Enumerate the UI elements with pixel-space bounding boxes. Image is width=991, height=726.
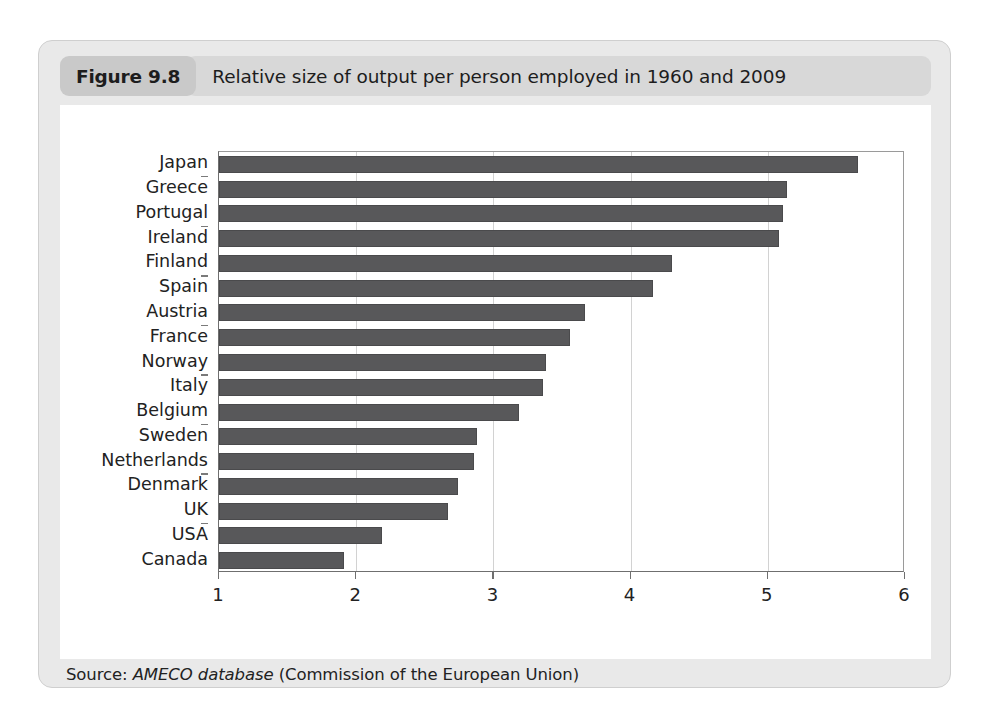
y-axis-tick-mark	[201, 473, 208, 474]
figure-number-badge: Figure 9.8	[60, 56, 196, 96]
bar	[219, 552, 344, 569]
bar-row	[219, 152, 858, 177]
bar-row	[219, 301, 585, 326]
x-axis-tick-mark	[355, 572, 356, 579]
bar-row	[219, 251, 672, 276]
y-axis-tick-label: Portugal	[136, 204, 208, 222]
x-axis-tick-label: 2	[335, 586, 375, 604]
y-axis-tick-mark	[201, 523, 208, 524]
bar-series	[219, 152, 903, 571]
y-axis-tick-label: Norway	[142, 353, 208, 371]
y-axis-tick-mark	[201, 176, 208, 177]
y-axis-tick-label: Greece	[146, 179, 208, 197]
y-axis-labels: JapanGreecePortugalIrelandFinlandSpainAu…	[60, 151, 208, 572]
bar-row	[219, 523, 382, 548]
y-axis-tick-label: Austria	[146, 303, 208, 321]
bar	[219, 255, 672, 272]
bar-row	[219, 177, 787, 202]
bar	[219, 428, 477, 445]
y-axis-tick-label: Belgium	[136, 402, 208, 420]
bar	[219, 304, 585, 321]
y-axis-tick-label: Denmark	[128, 476, 208, 494]
bar-row	[219, 424, 477, 449]
bar-row	[219, 202, 783, 227]
x-axis-tick-label: 3	[472, 586, 512, 604]
bar	[219, 156, 858, 173]
x-axis-tick-label: 6	[884, 586, 924, 604]
x-axis-tick-mark	[630, 572, 631, 579]
figure-header: Figure 9.8 Relative size of output per p…	[60, 56, 931, 96]
x-axis-tick-label: 1	[198, 586, 238, 604]
bar-row	[219, 276, 653, 301]
y-axis-tick-label: USA	[172, 526, 208, 544]
bar-row	[219, 375, 543, 400]
y-axis-tick-label: Finland	[145, 253, 208, 271]
bar	[219, 205, 783, 222]
bar	[219, 354, 546, 371]
figure-card: Figure 9.8 Relative size of output per p…	[38, 40, 951, 688]
source-emphasis: AMECO database	[133, 665, 274, 684]
bar-row	[219, 226, 779, 251]
bar-row	[219, 499, 448, 524]
bar	[219, 503, 448, 520]
y-axis-tick-label: Italy	[170, 377, 208, 395]
bar-row	[219, 400, 519, 425]
bar	[219, 379, 543, 396]
bar-row	[219, 474, 458, 499]
y-axis-tick-mark	[201, 325, 208, 326]
plot-area	[218, 151, 904, 572]
bar	[219, 280, 653, 297]
bar-row	[219, 325, 570, 350]
x-axis-tick-mark	[492, 572, 493, 579]
y-axis-tick-label: Netherlands	[101, 452, 208, 470]
bar	[219, 478, 458, 495]
source-note: Source: AMECO database (Commission of th…	[66, 665, 579, 684]
bar-row	[219, 449, 474, 474]
x-axis-tick-label: 5	[747, 586, 787, 604]
x-axis: 123456	[218, 572, 904, 622]
chart-plot-panel: JapanGreecePortugalIrelandFinlandSpainAu…	[60, 105, 931, 659]
y-axis-tick-label: UK	[184, 501, 208, 519]
x-axis-tick-mark	[218, 572, 219, 579]
bar	[219, 404, 519, 421]
bar-row	[219, 548, 344, 573]
x-axis-tick-mark	[767, 572, 768, 579]
bar	[219, 230, 779, 247]
source-prefix: Source:	[66, 665, 133, 684]
y-axis-tick-mark	[201, 424, 208, 425]
y-axis-tick-label: France	[150, 328, 208, 346]
x-axis-tick-label: 4	[610, 586, 650, 604]
x-axis-tick-mark	[904, 572, 905, 579]
y-axis-tick-label: Spain	[159, 278, 208, 296]
bar	[219, 181, 787, 198]
y-axis-tick-mark	[201, 374, 208, 375]
y-axis-tick-mark	[201, 275, 208, 276]
y-axis-tick-label: Sweden	[139, 427, 208, 445]
y-axis-tick-mark	[201, 226, 208, 227]
y-axis-tick-label: Canada	[141, 551, 208, 569]
figure-title: Relative size of output per person emplo…	[186, 56, 931, 96]
source-suffix: (Commission of the European Union)	[274, 665, 580, 684]
bar	[219, 453, 474, 470]
bar	[219, 527, 382, 544]
y-axis-tick-label: Ireland	[147, 229, 208, 247]
bar	[219, 329, 570, 346]
bar-row	[219, 350, 546, 375]
y-axis-tick-label: Japan	[159, 154, 208, 172]
